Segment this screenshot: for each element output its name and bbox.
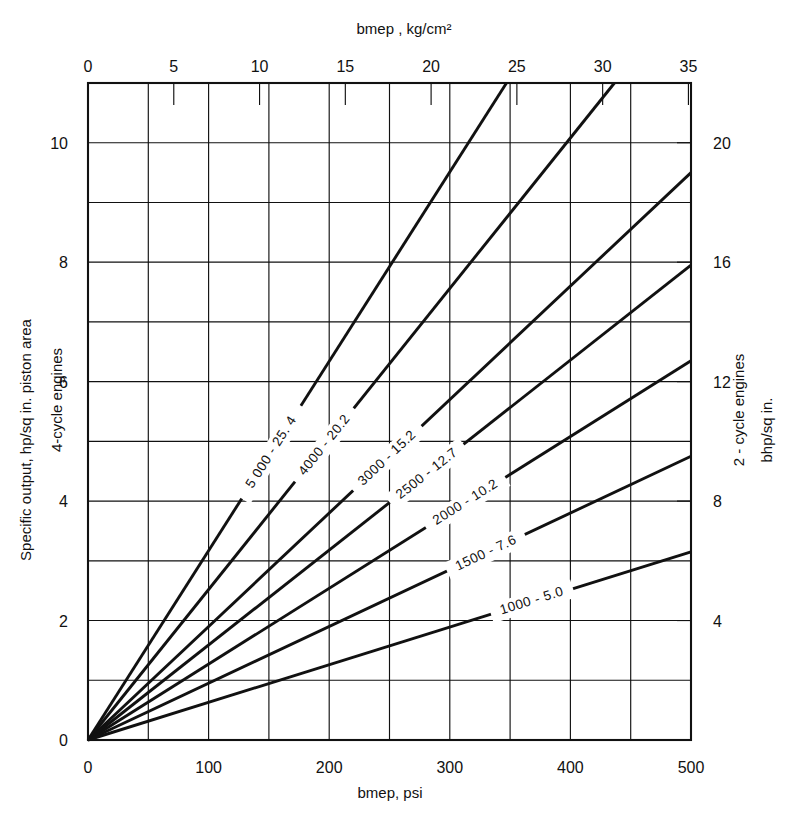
curve-label-text-4000: 4000 - 20.2 — [295, 411, 353, 478]
curve-label-text-1000: 1000 - 5.0 — [498, 583, 565, 617]
right-tick-label: 12 — [713, 374, 731, 391]
left-tick-label: 6 — [59, 374, 68, 391]
right-tick-label: 16 — [713, 254, 731, 271]
top-tick-label: 15 — [336, 58, 354, 75]
top-tick-label: 0 — [84, 58, 93, 75]
right-tick-label: 20 — [713, 135, 731, 152]
bottom-tick-label: 500 — [678, 759, 705, 776]
bottom-tick-label: 400 — [557, 759, 584, 776]
top-tick-label: 20 — [422, 58, 440, 75]
left-tick-label: 8 — [59, 254, 68, 271]
top-tick-label: 5 — [169, 58, 178, 75]
left-tick-label: 4 — [59, 493, 68, 510]
gridlines — [88, 83, 691, 740]
left-tick-label: 0 — [59, 732, 68, 749]
left-tick-label: 10 — [50, 135, 68, 152]
top-tick-label: 30 — [594, 58, 612, 75]
right-axis-title-secondary: bhp/sq in. — [758, 397, 775, 462]
top-axis-title: bmep , kg/cm² — [356, 20, 451, 37]
tick-labels: 0510152025303501002003004005000246810481… — [50, 58, 731, 776]
left-axis-title-primary: Specific output, hp/sq in. piston area — [17, 318, 34, 560]
bottom-axis-title: bmep, psi — [357, 784, 422, 801]
chart-svg: bmep , kg/cm² bmep, psi Specific output,… — [0, 0, 804, 819]
bottom-tick-label: 200 — [316, 759, 343, 776]
right-tick-label: 8 — [713, 493, 722, 510]
curve-label-1000: 1000 - 5.0 — [488, 579, 576, 623]
bottom-tick-label: 0 — [84, 759, 93, 776]
axis-ticks — [174, 83, 691, 621]
curve-label-text-5000: 5 000 - 25. 4 — [242, 413, 299, 490]
curve-label-text-2000: 2000 - 10.2 — [430, 476, 500, 528]
top-tick-label: 10 — [251, 58, 269, 75]
left-axis-title-secondary: 4-cycle engines — [48, 348, 65, 452]
curve-label-5000: 5 000 - 25. 4 — [234, 401, 309, 504]
bottom-tick-label: 300 — [436, 759, 463, 776]
curve-label-1500: 1500 - 7.6 — [443, 527, 529, 581]
left-tick-label: 2 — [59, 613, 68, 630]
right-tick-label: 4 — [713, 613, 722, 630]
top-tick-label: 35 — [680, 58, 698, 75]
engine-specific-output-chart: bmep , kg/cm² bmep, psi Specific output,… — [0, 0, 804, 819]
bottom-tick-label: 100 — [195, 759, 222, 776]
top-tick-label: 25 — [508, 58, 526, 75]
right-axis-title-primary: 2 - cycle engines — [730, 354, 747, 467]
